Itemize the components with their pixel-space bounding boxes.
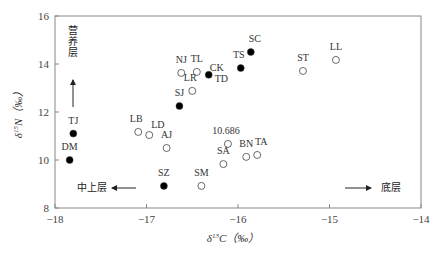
x-tick-label: −16 — [229, 213, 247, 225]
point-label: TL — [191, 53, 203, 64]
point-label: SM — [194, 167, 209, 178]
point-label: SA — [217, 145, 231, 156]
data-point-aj[interactable] — [163, 145, 170, 152]
point-label: TJ — [68, 115, 78, 126]
data-point-lr[interactable] — [189, 87, 196, 94]
annotation-trophic-char: 养 — [68, 35, 78, 47]
data-point-ll[interactable] — [332, 56, 339, 63]
data-point-ts[interactable] — [237, 65, 244, 72]
point-label: LR — [184, 72, 197, 83]
point-label: BN — [239, 138, 253, 149]
data-point-sc[interactable] — [247, 49, 254, 56]
scatter-chart: −18−17−16−15−14810121416δ13C（‰）δ15N（‰）TJ… — [0, 0, 439, 254]
point-label: CK — [210, 62, 225, 73]
point-label: DM — [62, 141, 78, 152]
point-label: TA — [255, 136, 268, 147]
data-point-bn[interactable] — [243, 153, 250, 160]
y-tick-label: 14 — [38, 58, 50, 70]
data-point-dm[interactable] — [66, 157, 73, 164]
annotation-upper-layer: 中上层 — [77, 181, 107, 193]
y-tick-label: 10 — [38, 154, 50, 166]
data-point-sz[interactable] — [160, 182, 167, 189]
point-label: 10.686 — [212, 125, 240, 136]
x-axis-title: δ13C（‰） — [207, 232, 259, 244]
data-point-st[interactable] — [299, 67, 306, 74]
annotation-bottom-layer: 底层 — [381, 181, 401, 193]
data-point-sj[interactable] — [176, 103, 183, 110]
x-tick-label: −17 — [138, 213, 156, 225]
data-point-ld[interactable] — [146, 132, 153, 139]
data-point-ta[interactable] — [254, 151, 261, 158]
data-point-sa[interactable] — [220, 161, 227, 168]
point-label: LL — [330, 41, 342, 52]
annotation-trophic-char: 营 — [68, 24, 78, 36]
annotation-trophic-char: 层 — [68, 47, 78, 58]
point-label-td: TD — [215, 73, 228, 84]
point-label: SZ — [158, 167, 170, 178]
point-label: NJ — [176, 54, 187, 65]
y-axis-title: δ15N（‰） — [12, 86, 24, 138]
point-label: TS — [233, 49, 245, 60]
x-tick-label: −14 — [412, 213, 430, 225]
point-label: AJ — [161, 129, 172, 140]
plot-frame — [55, 16, 421, 208]
y-tick-label: 12 — [38, 106, 49, 118]
point-label: ST — [297, 52, 309, 63]
x-tick-label: −18 — [46, 213, 64, 225]
data-point-tj[interactable] — [70, 130, 77, 137]
point-label: SJ — [175, 87, 185, 98]
point-label: LB — [130, 113, 143, 124]
y-tick-label: 8 — [44, 202, 50, 214]
x-tick-label: −15 — [321, 213, 339, 225]
point-label: SC — [249, 33, 262, 44]
data-point-sm[interactable] — [198, 182, 205, 189]
y-tick-label: 16 — [38, 10, 50, 22]
data-point-lb[interactable] — [135, 128, 142, 135]
